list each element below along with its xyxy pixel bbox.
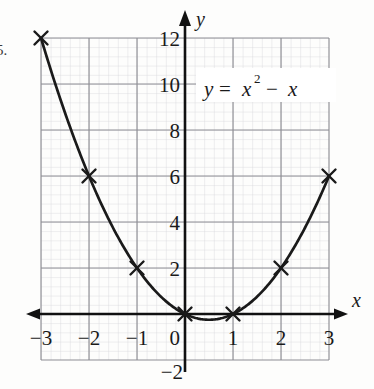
equation-equals: = (219, 77, 231, 101)
y-tick-label: 4 (170, 211, 181, 235)
graph-figure: 5. (0, 0, 374, 389)
x-axis-arrow-left (26, 309, 40, 320)
y-tick-label: 0 (170, 326, 181, 350)
equation-exponent: 2 (254, 71, 261, 86)
exercise-number: 5. (0, 42, 7, 59)
y-tick-label: 12 (159, 27, 180, 51)
y-tick-label: −2 (161, 360, 183, 384)
y-axis-arrow-top (179, 10, 191, 26)
x-axis-label: x (351, 289, 361, 311)
equation-term: x (287, 77, 298, 101)
y-tick-label: 6 (170, 165, 181, 189)
x-axis-arrow-right (334, 309, 348, 320)
x-tick-label: −2 (78, 326, 100, 350)
x-tick-label: 3 (324, 326, 335, 350)
x-tick-label: −3 (30, 326, 52, 350)
y-tick-label: 8 (170, 119, 181, 143)
coordinate-plane: 12 10 8 6 4 2 0 −2 −3 −2 −1 1 2 3 x y y … (0, 0, 374, 389)
x-tick-label: 2 (276, 326, 287, 350)
y-tick-label: 2 (170, 257, 181, 281)
x-tick-label: −1 (126, 326, 148, 350)
equation-base: x (241, 77, 252, 101)
x-tick-label: 1 (228, 326, 239, 350)
equation-minus: − (266, 77, 278, 101)
y-axis-label: y (194, 8, 205, 31)
equation-lhs: y (202, 77, 214, 101)
y-tick-label: 10 (159, 73, 180, 97)
